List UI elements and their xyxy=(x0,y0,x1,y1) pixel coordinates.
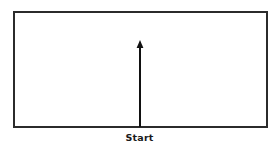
diagram-canvas: Start xyxy=(0,0,279,151)
diagram-drawing xyxy=(0,0,279,151)
start-label: Start xyxy=(0,132,279,144)
